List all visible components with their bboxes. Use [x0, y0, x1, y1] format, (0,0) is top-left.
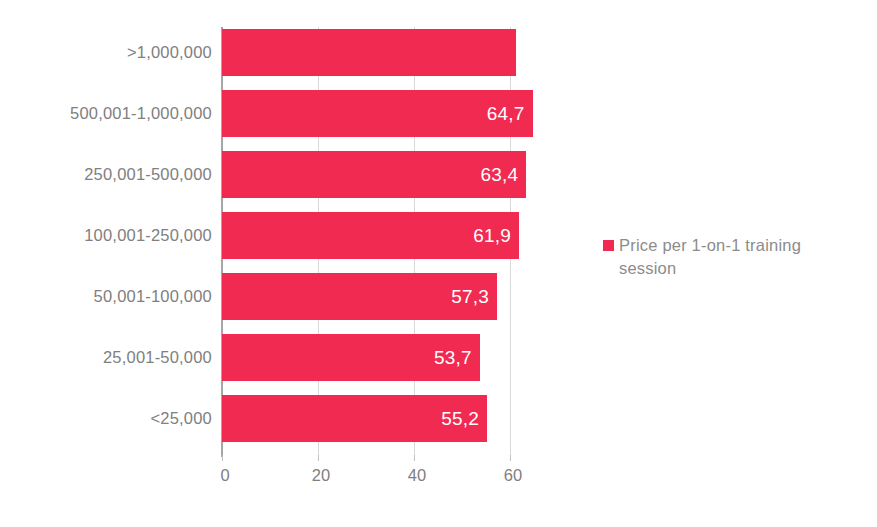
- x-tick-label-20: 20: [312, 466, 330, 485]
- bar-0[interactable]: [222, 29, 516, 76]
- category-label-1: 500,001-1,000,000: [70, 90, 212, 137]
- x-tick-mark-60: [510, 455, 511, 461]
- x-tick-mark-40: [414, 455, 415, 461]
- bar-chart: 61,3 64,7 63,4 61,9 57,3 53,7 55,2 >1,00…: [0, 0, 877, 527]
- category-label-4: 50,001-100,000: [94, 273, 212, 320]
- x-tick-label-40: 40: [408, 466, 426, 485]
- legend-entry-label: Price per 1-on-1 training session: [619, 234, 801, 280]
- legend-label-line-1: Price per 1-on-1 training: [619, 236, 801, 254]
- x-tick-label-60: 60: [504, 466, 522, 485]
- category-label-6: <25,000: [150, 395, 212, 442]
- category-label-0: >1,000,000: [127, 29, 212, 76]
- legend[interactable]: Price per 1-on-1 training session: [603, 234, 853, 280]
- category-label-5: 25,001-50,000: [103, 334, 212, 381]
- x-tick-label-0: 0: [220, 466, 229, 485]
- bar-value-label: 64,7: [222, 90, 533, 137]
- bar-value-label: 57,3: [222, 273, 497, 320]
- category-label-3: 100,001-250,000: [84, 212, 212, 259]
- bar-value-label: 61,9: [222, 212, 519, 259]
- legend-label-line-2: session: [619, 259, 676, 277]
- x-tick-mark-20: [318, 455, 319, 461]
- bar-value-label: 53,7: [222, 334, 480, 381]
- legend-swatch-icon: [603, 240, 614, 251]
- bar-value-label: 63,4: [222, 151, 526, 198]
- category-label-2: 250,001-500,000: [84, 151, 212, 198]
- bar-value-label: 55,2: [222, 395, 487, 442]
- x-tick-mark-0: [222, 455, 223, 461]
